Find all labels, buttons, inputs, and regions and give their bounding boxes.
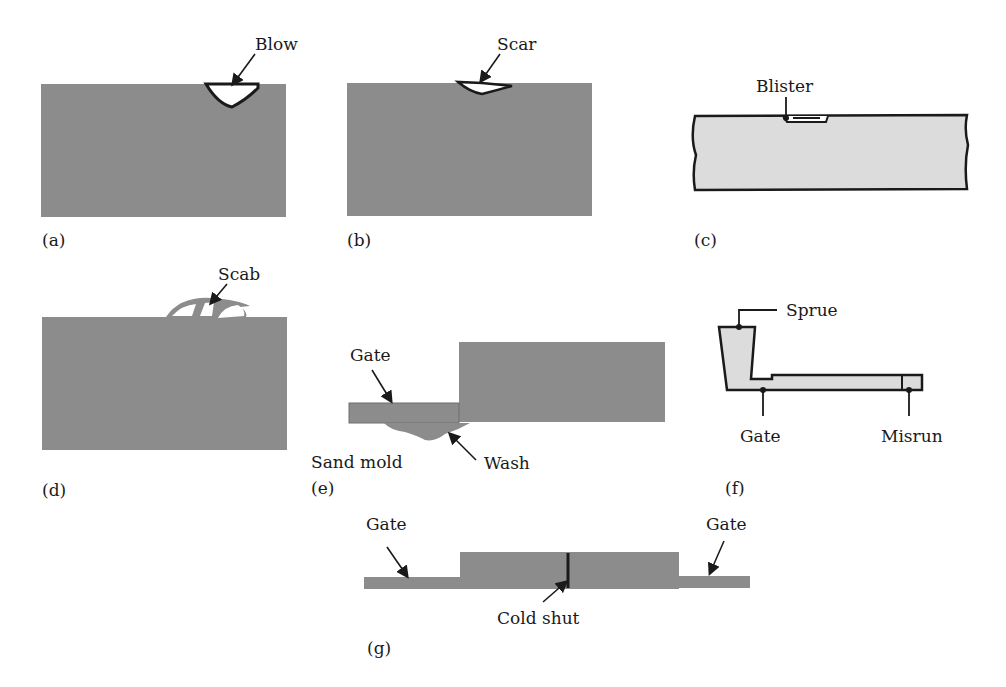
- panel-e-wash: [349, 342, 665, 460]
- panel-c-blister: [693, 97, 968, 190]
- caption-e: (e): [311, 480, 334, 497]
- panel-d-scab: [42, 284, 287, 450]
- casting-defects-diagram: [0, 0, 1006, 687]
- label-wash: Wash: [484, 455, 530, 472]
- caption-d: (d): [42, 482, 66, 499]
- panel-a-blow: [41, 54, 286, 217]
- label-sprue: Sprue: [786, 302, 838, 319]
- caption-f: (f): [725, 480, 745, 497]
- panel-g-cold-shut: [364, 541, 750, 602]
- caption-g: (g): [367, 640, 391, 657]
- caption-b: (b): [347, 232, 371, 249]
- label-blow: Blow: [255, 36, 298, 53]
- label-e-gate: Gate: [350, 347, 391, 364]
- panel-b-scar: [347, 54, 592, 216]
- label-f-gate: Gate: [740, 428, 781, 445]
- label-scab: Scab: [218, 266, 260, 283]
- label-misrun: Misrun: [881, 428, 943, 445]
- caption-a: (a): [42, 232, 65, 249]
- caption-c: (c): [694, 232, 717, 249]
- label-g-gate-left: Gate: [366, 516, 407, 533]
- label-blister: Blister: [756, 78, 813, 95]
- label-cold-shut: Cold shut: [497, 610, 579, 627]
- label-sand-mold: Sand mold: [311, 454, 403, 471]
- label-scar: Scar: [497, 36, 536, 53]
- label-g-gate-right: Gate: [706, 516, 747, 533]
- panel-f-misrun: [719, 310, 922, 416]
